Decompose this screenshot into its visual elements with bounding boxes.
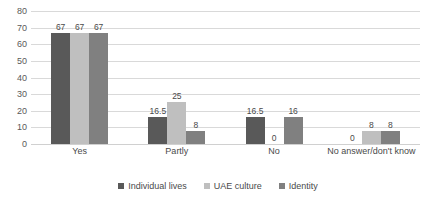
bar-chart: 80706050403020100 67676716.525816.501608… (0, 0, 436, 202)
bar[interactable] (51, 33, 70, 144)
bar-value-label: 25 (172, 92, 181, 101)
x-tick-label: Yes (72, 146, 87, 157)
bar[interactable] (148, 117, 167, 144)
legend-label: Identity (289, 181, 318, 191)
legend-label: Individual lives (128, 181, 187, 191)
x-tick-label: Partly (165, 146, 188, 157)
bar-value-label: 16.5 (247, 107, 264, 116)
y-tick-label: 20 (17, 106, 27, 115)
bar[interactable] (362, 131, 381, 144)
bar-slot: 0 (343, 11, 362, 144)
x-axis: YesPartlyNoNo answer/don't know (31, 146, 420, 162)
bar-value-label: 8 (369, 121, 374, 130)
legend-item[interactable]: Identity (279, 181, 318, 191)
bar-group: 16.5016 (226, 11, 323, 144)
y-tick-label: 60 (17, 40, 27, 49)
y-tick-label: 50 (17, 56, 27, 65)
bar-value-label: 8 (194, 121, 199, 130)
y-axis: 80706050403020100 (0, 11, 27, 144)
bar-value-label: 0 (272, 134, 277, 143)
bars-layer: 67676716.525816.5016088 (31, 11, 420, 144)
bar[interactable] (284, 117, 303, 144)
legend-item[interactable]: Individual lives (118, 181, 187, 191)
bar-slot: 8 (186, 11, 205, 144)
bar[interactable] (89, 33, 108, 144)
bar[interactable] (70, 33, 89, 144)
bar-slot: 0 (265, 11, 284, 144)
bar-value-label: 67 (56, 23, 65, 32)
bar-slot: 8 (362, 11, 381, 144)
bar-value-label: 67 (75, 23, 84, 32)
bar-value-label: 8 (388, 121, 393, 130)
bar-value-label: 16.5 (150, 107, 167, 116)
bar-group: 088 (323, 11, 420, 144)
bar-slot: 25 (167, 11, 186, 144)
bar[interactable] (167, 102, 186, 144)
bar-slot: 8 (381, 11, 400, 144)
x-tick-label: No answer/don't know (327, 146, 415, 157)
chart-legend: Individual livesUAE cultureIdentity (0, 181, 436, 191)
bar-slot: 16 (284, 11, 303, 144)
legend-label: UAE culture (214, 181, 262, 191)
legend-swatch-icon (204, 183, 210, 189)
bar-group: 16.5258 (128, 11, 225, 144)
y-tick-label: 70 (17, 23, 27, 32)
bar[interactable] (186, 131, 205, 144)
bar[interactable] (381, 131, 400, 144)
bar-value-label: 16 (288, 107, 297, 116)
bar-slot: 67 (89, 11, 108, 144)
bar[interactable] (246, 117, 265, 144)
bar-slot: 16.5 (148, 11, 167, 144)
legend-item[interactable]: UAE culture (204, 181, 262, 191)
plot-area: 67676716.525816.5016088 (31, 11, 420, 144)
bar-group: 676767 (31, 11, 128, 144)
legend-swatch-icon (118, 183, 124, 189)
bar-value-label: 67 (94, 23, 103, 32)
gridline-0 (31, 144, 420, 145)
y-tick-label: 40 (17, 73, 27, 82)
bar-value-label: 0 (350, 134, 355, 143)
bar-slot: 16.5 (246, 11, 265, 144)
y-tick-label: 10 (17, 123, 27, 132)
x-tick-label: No (268, 146, 280, 157)
y-tick-label: 80 (17, 7, 27, 16)
y-tick-label: 30 (17, 90, 27, 99)
legend-swatch-icon (279, 183, 285, 189)
y-tick-label: 0 (22, 140, 27, 149)
bar-slot: 67 (51, 11, 70, 144)
bar-slot: 67 (70, 11, 89, 144)
